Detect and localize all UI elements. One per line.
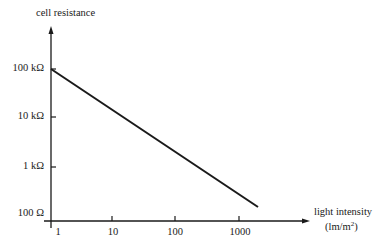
y-tick-label-1k: 1 kΩ xyxy=(0,160,44,171)
x-tick-label-1000: 1000 xyxy=(220,226,260,237)
x-axis-unit: (lm/m2) xyxy=(325,221,358,232)
x-axis-unit-base: (lm/m xyxy=(325,221,351,232)
y-tick-label-100k: 100 kΩ xyxy=(0,62,44,73)
y-tick-label-10k: 10 kΩ xyxy=(0,110,44,121)
y-axis-arrow-icon xyxy=(49,26,54,34)
x-axis-unit-close: ) xyxy=(354,221,358,232)
chart-area: cell resistance 100 kΩ 10 kΩ 1 kΩ 100 Ω … xyxy=(0,0,386,249)
x-tick-label-100: 100 xyxy=(155,226,195,237)
y-tick-label-100: 100 Ω xyxy=(0,207,44,218)
x-axis-arrow-icon xyxy=(302,219,310,224)
data-line xyxy=(51,69,258,207)
x-axis-title: light intensity xyxy=(314,206,372,217)
x-tick-label-10: 10 xyxy=(93,226,133,237)
y-axis-title: cell resistance xyxy=(36,7,95,18)
x-tick-label-1: 1 xyxy=(38,226,78,237)
